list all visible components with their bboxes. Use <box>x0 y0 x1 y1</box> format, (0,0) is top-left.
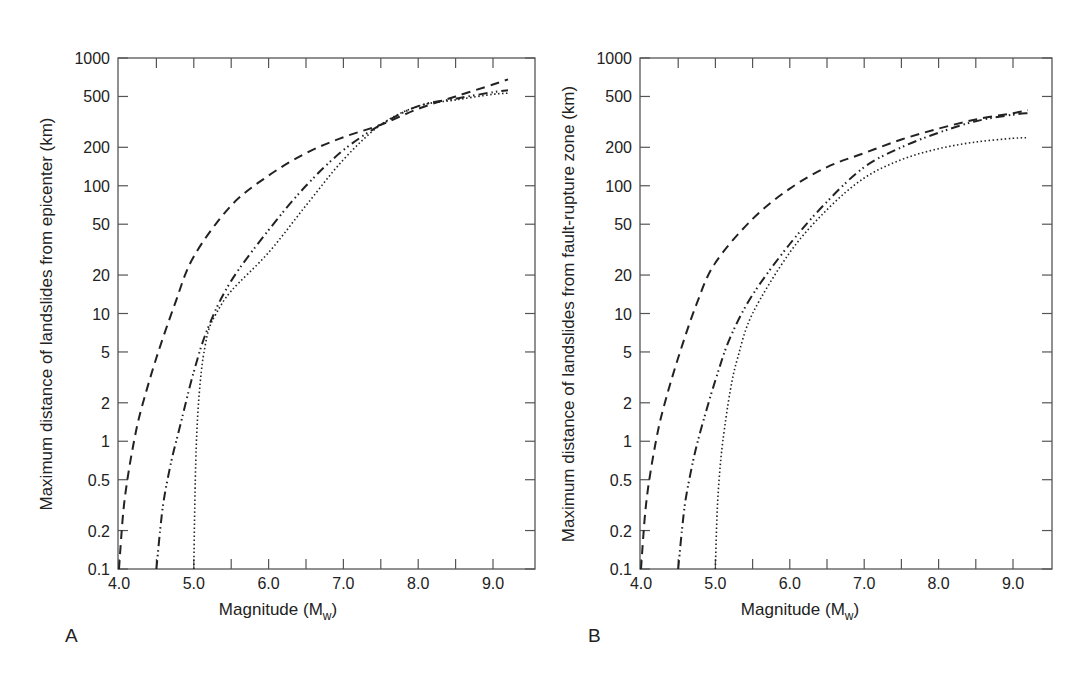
y-tick-label: 200 <box>83 139 110 156</box>
panel-b-x-axis-title: Magnitude (Mw) <box>741 600 859 623</box>
y-tick-label: 20 <box>92 267 110 284</box>
x-tick-label: 5.0 <box>704 575 726 592</box>
panel-b-x-axis-title-sub: w <box>844 609 854 623</box>
panel-a-label: A <box>65 625 78 646</box>
y-tick-label: 1000 <box>596 50 632 67</box>
series-dash-dot-dot-line <box>678 113 1028 569</box>
panel-b-x-axis-title-close: ) <box>853 600 859 619</box>
x-tick-label: 6.0 <box>257 575 279 592</box>
panel-a-y-axis-title: Maximum distance of landslides from epic… <box>37 117 56 510</box>
y-tick-label: 5 <box>101 344 110 361</box>
y-tick-label: 200 <box>605 139 632 156</box>
y-tick-label: 100 <box>83 178 110 195</box>
y-tick-label: 1 <box>623 433 632 450</box>
series-dashed-line <box>641 110 1028 569</box>
x-tick-label: 8.0 <box>407 575 429 592</box>
plot-frame <box>640 58 1052 569</box>
y-tick-label: 2 <box>101 395 110 412</box>
y-tick-label: 0.1 <box>610 561 632 578</box>
y-tick-label: 100 <box>605 178 632 195</box>
panel-b-y-axis-title: Maximum distance of landslides from faul… <box>559 86 578 542</box>
series-dashed-line <box>119 79 508 569</box>
x-tick-label: 9.0 <box>482 575 504 592</box>
y-tick-label: 2 <box>623 395 632 412</box>
y-tick-label: 1000 <box>74 50 110 67</box>
y-tick-label: 0.5 <box>610 472 632 489</box>
y-tick-label: 0.5 <box>88 472 110 489</box>
panel-b-label: B <box>588 625 601 646</box>
panel-b-chart: 0.10.20.512510205010020050010004.05.06.0… <box>596 50 1052 592</box>
panel-a-x-axis-title-close: ) <box>331 600 337 619</box>
x-tick-label: 7.0 <box>853 575 875 592</box>
y-tick-label: 1 <box>101 433 110 450</box>
x-tick-label: 7.0 <box>332 575 354 592</box>
figure-canvas: 0.10.20.512510205010020050010004.05.06.0… <box>0 0 1087 684</box>
y-tick-label: 0.2 <box>610 523 632 540</box>
y-tick-label: 500 <box>83 88 110 105</box>
y-tick-label: 10 <box>614 306 632 323</box>
y-tick-label: 500 <box>605 88 632 105</box>
plot-frame <box>118 58 535 569</box>
x-tick-label: 8.0 <box>927 575 949 592</box>
y-tick-label: 0.1 <box>88 561 110 578</box>
panel-a-x-axis-title: Magnitude (Mw) <box>219 600 337 623</box>
series-dotted-line <box>194 93 508 569</box>
panel-b-x-axis-title-main: Magnitude (M <box>741 600 845 619</box>
x-tick-label: 4.0 <box>108 575 130 592</box>
panel-a-x-axis-title-sub: w <box>322 609 332 623</box>
y-tick-label: 50 <box>614 216 632 233</box>
x-tick-label: 9.0 <box>1002 575 1024 592</box>
y-tick-label: 50 <box>92 216 110 233</box>
x-tick-label: 5.0 <box>183 575 205 592</box>
x-tick-label: 4.0 <box>630 575 652 592</box>
y-tick-label: 10 <box>92 306 110 323</box>
y-tick-label: 5 <box>623 344 632 361</box>
y-tick-label: 20 <box>614 267 632 284</box>
x-tick-label: 6.0 <box>779 575 801 592</box>
y-tick-label: 0.2 <box>88 523 110 540</box>
panel-a-x-axis-title-main: Magnitude (M <box>219 600 323 619</box>
panel-a-chart: 0.10.20.512510205010020050010004.05.06.0… <box>74 50 535 592</box>
series-dotted-line <box>715 138 1028 569</box>
